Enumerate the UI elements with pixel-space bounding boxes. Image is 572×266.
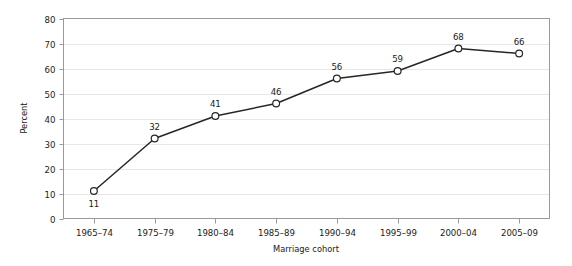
- y-axis-tick-labels: 01020304050607080: [45, 15, 56, 225]
- data-point-marker: [212, 113, 219, 120]
- y-axis-tick-label: 30: [45, 140, 56, 150]
- x-axis-tick-label: 2000–04: [440, 228, 477, 238]
- x-axis-tick-label: 2005–09: [501, 228, 538, 238]
- x-axis-tick-label: 1980–84: [197, 228, 234, 238]
- y-axis-tick-label: 70: [45, 40, 56, 50]
- data-point-marker: [151, 135, 158, 142]
- y-axis-tick-label: 0: [50, 215, 55, 225]
- data-point-label: 56: [331, 62, 342, 72]
- data-point-label: 41: [210, 99, 221, 109]
- data-point-marker: [455, 45, 462, 52]
- y-axis-tick-label: 40: [45, 115, 56, 125]
- chart-figure: 01020304050607080 1965–741975–791980–841…: [0, 0, 572, 266]
- data-point-label: 32: [149, 122, 160, 132]
- data-point-label: 11: [88, 199, 99, 209]
- data-point-label: 59: [392, 54, 403, 64]
- data-point-marker: [394, 68, 401, 75]
- chart-background: [0, 0, 572, 266]
- x-axis-tick-label: 1990–94: [319, 228, 356, 238]
- y-axis-title: Percent: [19, 102, 29, 134]
- y-axis-tick-label: 10: [45, 190, 56, 200]
- line-chart: 01020304050607080 1965–741975–791980–841…: [0, 0, 572, 266]
- x-axis-title: Marriage cohort: [273, 244, 340, 254]
- data-point-marker: [333, 75, 340, 82]
- data-point-label: 66: [514, 37, 525, 47]
- data-point-marker: [273, 100, 280, 107]
- x-axis-tick-label: 1975–79: [137, 228, 174, 238]
- data-point-label: 68: [453, 32, 464, 42]
- y-axis-tick-label: 60: [45, 65, 56, 75]
- data-point-marker: [90, 188, 97, 195]
- data-point-label: 46: [271, 87, 282, 97]
- x-axis-tick-label: 1985–89: [258, 228, 295, 238]
- y-axis-tick-label: 20: [45, 165, 56, 175]
- y-axis-tick-label: 80: [45, 15, 56, 25]
- data-point-marker: [516, 50, 523, 57]
- x-axis-tick-label: 1995–99: [380, 228, 417, 238]
- x-axis-tick-label: 1965–74: [76, 228, 113, 238]
- y-axis-tick-label: 50: [45, 90, 56, 100]
